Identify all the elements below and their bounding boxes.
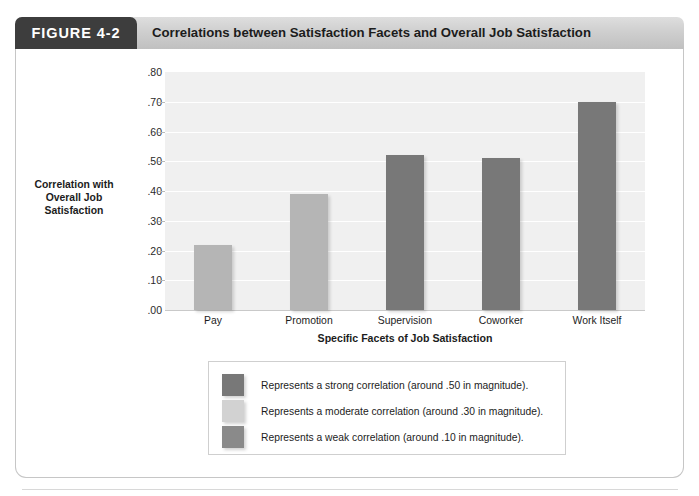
x-axis-tick-label: Coworker [479, 315, 523, 326]
legend-item: Represents a moderate correlation (aroun… [222, 398, 556, 424]
legend-swatch [222, 400, 244, 422]
x-axis-tick-label: Supervision [378, 315, 432, 326]
legend-label: Represents a moderate correlation (aroun… [261, 406, 543, 417]
x-axis-tick-label: Pay [204, 315, 222, 326]
x-axis-line [165, 310, 645, 311]
y-axis-ticks: .80.70.60.50.40.30.20.10.00 [120, 0, 162, 496]
bar [578, 102, 616, 310]
y-axis-title-line: Correlation with [26, 178, 122, 191]
legend-label: Represents a weak correlation (around .1… [261, 432, 524, 443]
legend-swatch [222, 426, 244, 448]
legend-item: Represents a weak correlation (around .1… [222, 424, 556, 450]
y-axis-tick-label: .70 [128, 96, 162, 108]
figure-title: Correlations between Satisfaction Facets… [152, 17, 672, 49]
gridline [165, 102, 645, 103]
bar [386, 155, 424, 310]
bar [194, 245, 232, 310]
y-axis-title: Correlation withOverall JobSatisfaction [26, 178, 122, 217]
figure-number-tab: FIGURE 4-2 [15, 17, 137, 49]
figure-number-label: FIGURE 4-2 [32, 25, 121, 41]
y-axis-tick-mark [158, 132, 165, 133]
y-axis-tick-label: .50 [128, 155, 162, 167]
page-divider [22, 489, 678, 490]
y-axis-tick-label: .80 [128, 66, 162, 78]
x-axis-tick-label: Work Itself [573, 315, 622, 326]
y-axis-tick-label: .40 [128, 185, 162, 197]
y-axis-tick-mark [158, 191, 165, 192]
y-axis-tick-label: .10 [128, 274, 162, 286]
y-axis-tick-mark [158, 280, 165, 281]
legend-item: Represents a strong correlation (around … [222, 372, 556, 398]
legend-label: Represents a strong correlation (around … [261, 380, 528, 391]
y-axis-tick-label: .00 [128, 304, 162, 316]
x-axis-title: Specific Facets of Job Satisfaction [165, 332, 645, 344]
y-axis-tick-mark [158, 221, 165, 222]
y-axis-tick-label: .20 [128, 245, 162, 257]
y-axis-tick-mark [158, 102, 165, 103]
y-axis-tick-label: .60 [128, 126, 162, 138]
y-axis-title-line: Satisfaction [26, 204, 122, 217]
bar [482, 158, 520, 310]
y-axis-title-line: Overall Job [26, 191, 122, 204]
legend: Represents a strong correlation (around … [208, 361, 566, 455]
bar [290, 194, 328, 310]
x-axis-tick-label: Promotion [285, 315, 332, 326]
y-axis-tick-label: .30 [128, 215, 162, 227]
gridline [165, 132, 645, 133]
y-axis-tick-mark [158, 251, 165, 252]
y-axis-tick-mark [158, 161, 165, 162]
legend-swatch [222, 374, 244, 396]
